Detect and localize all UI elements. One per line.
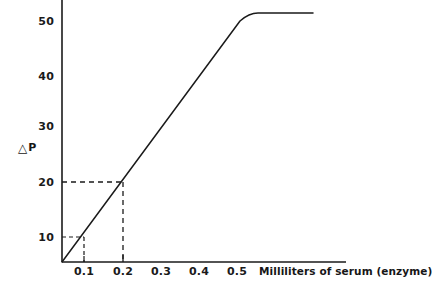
x-tick-label-0-2: 0.2 bbox=[107, 265, 139, 278]
y-tick-label-20: 20 bbox=[22, 176, 54, 189]
data-curve-enzyme-response bbox=[62, 13, 313, 262]
y-tick-label-40: 40 bbox=[22, 70, 54, 83]
y-tick-label-30: 30 bbox=[22, 120, 54, 133]
delta-triangle-icon: △ bbox=[18, 142, 27, 154]
x-tick-label-0-3: 0.3 bbox=[145, 265, 177, 278]
x-tick-label-0-1: 0.1 bbox=[68, 265, 100, 278]
x-tick-label-0-4: 0.4 bbox=[183, 265, 215, 278]
y-tick-label-10: 10 bbox=[22, 231, 54, 244]
y-tick-label-50: 50 bbox=[22, 15, 54, 28]
y-axis-title-symbol: P bbox=[28, 141, 36, 154]
y-axis-title: △P bbox=[18, 141, 36, 154]
x-axis-title: Milliliters of serum (enzyme) bbox=[259, 265, 432, 277]
x-tick-label-0-5: 0.5 bbox=[221, 265, 253, 278]
